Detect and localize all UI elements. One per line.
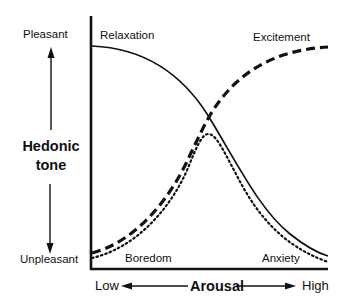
pleasant-label: Pleasant bbox=[23, 28, 68, 40]
low-label: Low bbox=[95, 278, 119, 293]
boredom-label: Boredom bbox=[125, 252, 172, 264]
combined-tone-curve bbox=[92, 134, 328, 262]
arousal-title: Arousal bbox=[190, 277, 244, 296]
hedonic-tone-arousal-diagram: Pleasant Hedonic tone Unpleasant Relaxat… bbox=[0, 0, 347, 308]
anxiety-label: Anxiety bbox=[262, 252, 300, 264]
excitement-label: Excitement bbox=[253, 31, 310, 43]
relaxation-anxiety-curve bbox=[92, 46, 328, 256]
unpleasant-arrow-icon bbox=[47, 184, 54, 254]
high-arrow-icon bbox=[236, 283, 296, 290]
boredom-excitement-curve bbox=[92, 47, 328, 253]
relaxation-label: Relaxation bbox=[100, 29, 154, 41]
pleasant-arrow-icon bbox=[48, 47, 55, 130]
axes bbox=[90, 16, 328, 270]
hedonic-tone-title: Hedonic tone bbox=[16, 137, 86, 175]
hedonic-tone-title-line1: Hedonic bbox=[16, 137, 86, 156]
high-label: High bbox=[302, 278, 329, 293]
unpleasant-label: Unpleasant bbox=[20, 253, 78, 265]
low-arrow-icon bbox=[121, 283, 188, 290]
hedonic-tone-title-line2: tone bbox=[16, 156, 86, 175]
